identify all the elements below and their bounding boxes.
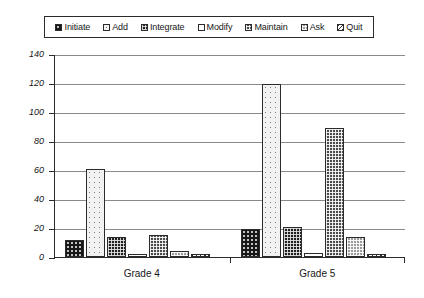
- bar-grade-4-integrate: [107, 237, 126, 257]
- category-label-grade-4: Grade 4: [124, 268, 160, 279]
- legend-swatch-maintain-icon: [245, 24, 252, 31]
- bar-grade-5-integrate: [283, 227, 302, 257]
- plot-area: [54, 55, 405, 258]
- legend-swatch-modify-icon: [198, 24, 205, 31]
- y-axis-label: 20: [0, 224, 44, 233]
- bar-grade-5-ask: [346, 237, 365, 257]
- bar-chart: InitiateAddIntegrateModifyMaintainAskQui…: [0, 0, 424, 298]
- legend-swatch-add-icon: [103, 24, 110, 31]
- legend-item-ask[interactable]: Ask: [301, 23, 325, 32]
- category-separator: [230, 258, 231, 263]
- x-axis-end-tick: [404, 258, 405, 263]
- legend-item-integrate[interactable]: Integrate: [141, 23, 185, 32]
- bars-layer: [55, 55, 405, 257]
- legend-label: Quit: [346, 23, 362, 32]
- bar-grade-5-modify: [304, 253, 323, 257]
- legend-swatch-quit-icon: [337, 24, 344, 31]
- legend-swatch-initiate-icon: [55, 24, 62, 31]
- y-axis-label: 60: [0, 166, 44, 175]
- legend-label: Add: [112, 23, 128, 32]
- bar-grade-5-quit: [367, 254, 386, 257]
- y-axis-label: 80: [0, 137, 44, 146]
- legend-item-add[interactable]: Add: [103, 23, 128, 32]
- category-axis: Grade 4Grade 5: [54, 258, 405, 290]
- bar-grade-4-ask: [170, 251, 189, 257]
- y-axis-label: 140: [0, 50, 44, 59]
- legend-label: Integrate: [150, 23, 185, 32]
- category-label-grade-5: Grade 5: [299, 268, 335, 279]
- legend-item-quit[interactable]: Quit: [337, 23, 362, 32]
- bar-grade-4-initiate: [65, 240, 84, 257]
- y-axis-label: 40: [0, 195, 44, 204]
- bar-grade-5-initiate: [241, 229, 260, 257]
- legend-label: Modify: [207, 23, 233, 32]
- chart-legend: InitiateAddIntegrateModifyMaintainAskQui…: [44, 16, 374, 38]
- legend-item-initiate[interactable]: Initiate: [55, 23, 90, 32]
- legend-item-maintain[interactable]: Maintain: [245, 23, 287, 32]
- y-axis-label: 0: [0, 253, 44, 262]
- legend-item-modify[interactable]: Modify: [198, 23, 233, 32]
- bar-grade-4-maintain: [149, 235, 168, 257]
- bar-grade-4-add: [86, 169, 105, 257]
- legend-swatch-ask-icon: [301, 24, 308, 31]
- bar-grade-5-add: [262, 84, 281, 257]
- y-axis-label: 100: [0, 108, 44, 117]
- legend-swatch-integrate-icon: [141, 24, 148, 31]
- bar-grade-4-quit: [191, 254, 210, 257]
- legend-label: Initiate: [64, 23, 90, 32]
- bar-grade-4-modify: [128, 254, 147, 257]
- legend-label: Ask: [310, 23, 325, 32]
- legend-label: Maintain: [254, 23, 287, 32]
- bar-grade-5-maintain: [325, 128, 344, 257]
- y-axis-label: 120: [0, 79, 44, 88]
